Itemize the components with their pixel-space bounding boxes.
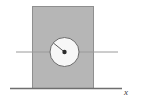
disk-center-point xyxy=(62,50,66,54)
figure-canvas: x xyxy=(0,0,141,103)
physics-diagram-figure: x xyxy=(0,0,141,103)
x-axis-label: x xyxy=(123,87,128,97)
